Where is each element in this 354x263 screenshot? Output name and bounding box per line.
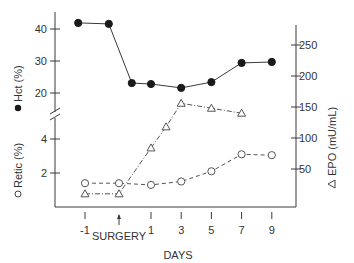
hct-axis-label: Hct (%) bbox=[12, 65, 24, 102]
retic-point bbox=[238, 151, 245, 158]
filled-circle-legend-icon bbox=[15, 105, 21, 111]
retic-point bbox=[81, 180, 88, 187]
hct-point bbox=[268, 58, 275, 65]
epo-tick-label: 150 bbox=[299, 101, 317, 113]
epo-tick-label: 250 bbox=[299, 39, 317, 51]
x-tick-label: 1 bbox=[148, 224, 154, 236]
x-tick-label: 3 bbox=[178, 224, 184, 236]
hct-point bbox=[105, 20, 112, 27]
x-tick-label: -1 bbox=[80, 224, 90, 236]
retic-point bbox=[208, 168, 215, 175]
axes bbox=[50, 12, 301, 225]
epo-point bbox=[147, 144, 155, 151]
epo-axis-label: EPO (mU/mL) bbox=[326, 107, 338, 176]
hct-point bbox=[75, 19, 82, 26]
series-line-2 bbox=[85, 103, 242, 194]
surgery-label: SURGERY bbox=[92, 230, 147, 242]
hct-tick-label: 30 bbox=[35, 55, 47, 67]
hct-point bbox=[238, 59, 245, 66]
chart: 2030402450100150200250-113579SURGERYDAYS… bbox=[0, 0, 354, 263]
series-lines bbox=[78, 23, 272, 194]
labels: 2030402450100150200250-113579SURGERYDAYS… bbox=[12, 23, 338, 261]
retic-point bbox=[147, 181, 154, 188]
open-triangle-legend-icon bbox=[328, 180, 335, 188]
epo-tick-label: 200 bbox=[299, 70, 317, 82]
x-tick-label: 7 bbox=[239, 224, 245, 236]
retic-axis-label: Retic (%) bbox=[12, 143, 24, 188]
epo-point bbox=[177, 99, 185, 106]
retic-point bbox=[115, 180, 122, 187]
epo-tick-label: 100 bbox=[299, 132, 317, 144]
hct-point bbox=[208, 79, 215, 86]
retic-axis-title: Retic (%) bbox=[12, 143, 24, 197]
retic-tick-label: 2 bbox=[41, 167, 47, 179]
hct-tick-label: 20 bbox=[35, 87, 47, 99]
x-tick-label: 5 bbox=[208, 224, 214, 236]
hct-tick-label: 40 bbox=[35, 23, 47, 35]
hct-point bbox=[147, 80, 154, 87]
x-axis-label: DAYS bbox=[163, 249, 192, 261]
x-tick-label: 9 bbox=[269, 224, 275, 236]
series-line-0 bbox=[78, 23, 272, 88]
hct-point bbox=[178, 84, 185, 91]
epo-point bbox=[162, 123, 170, 130]
epo-tick-label: 50 bbox=[299, 163, 311, 175]
retic-point bbox=[268, 152, 275, 159]
open-circle-legend-icon bbox=[15, 191, 21, 197]
hct-axis-title: Hct (%) bbox=[12, 65, 24, 111]
surgery-arrowhead-icon bbox=[117, 214, 121, 219]
retic-point bbox=[178, 178, 185, 185]
series-points bbox=[75, 19, 276, 196]
epo-axis-title: EPO (mU/mL) bbox=[326, 107, 338, 188]
retic-tick-label: 4 bbox=[41, 133, 47, 145]
hct-point bbox=[128, 79, 135, 86]
